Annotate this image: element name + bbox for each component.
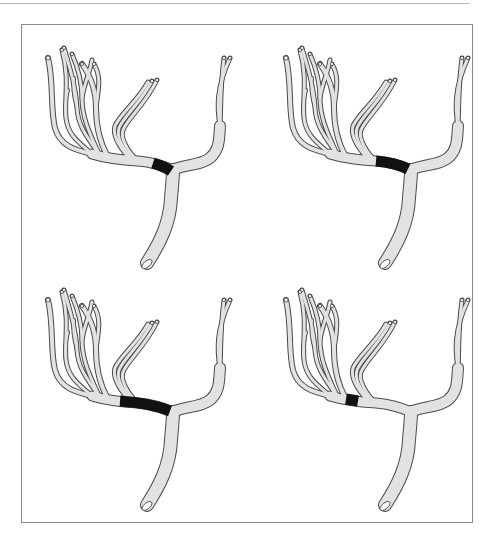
panel-top-left: [46, 46, 232, 270]
vascular-figure: [0, 0, 492, 544]
panel-bottom-right: [284, 288, 470, 512]
panel-bottom-left: [46, 288, 232, 512]
occlusion-segment: [376, 161, 408, 169]
panel-top-right: [284, 46, 470, 270]
occlusion-segment: [346, 399, 358, 401]
occlusion-segment: [153, 163, 171, 171]
